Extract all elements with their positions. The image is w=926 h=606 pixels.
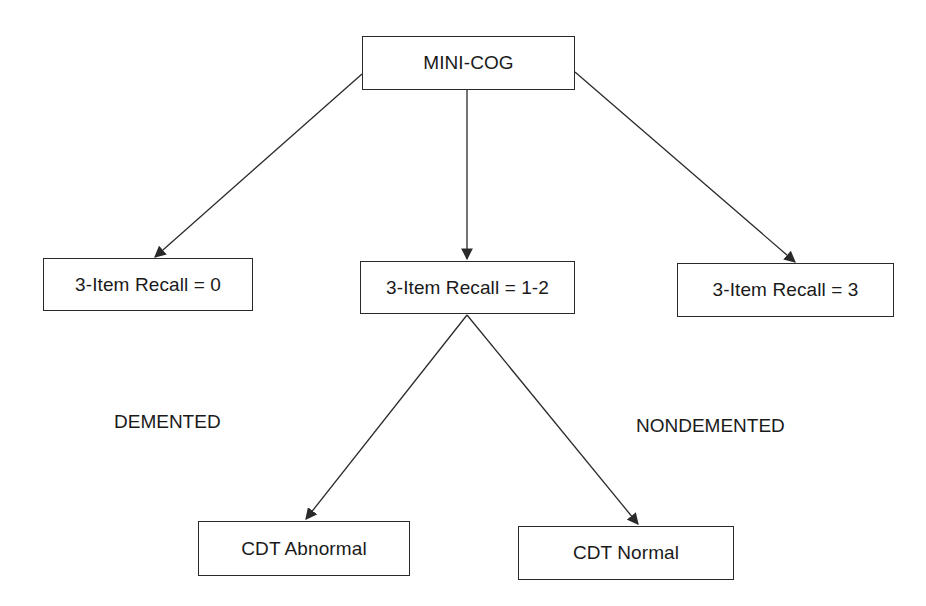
node-mini-cog-label: MINI-COG (423, 52, 514, 74)
edge-root-to-recall-0 (155, 74, 362, 257)
node-cdt-abnormal: CDT Abnormal (198, 521, 410, 576)
outcome-demented-label: DEMENTED (114, 411, 221, 433)
node-mini-cog: MINI-COG (362, 36, 575, 90)
node-recall-3-label: 3-Item Recall = 3 (713, 279, 859, 301)
node-recall-3: 3-Item Recall = 3 (677, 263, 894, 317)
node-cdt-normal-label: CDT Normal (573, 542, 679, 564)
node-cdt-normal: CDT Normal (518, 526, 734, 580)
outcome-nondemented-label: NONDEMENTED (636, 415, 785, 437)
node-cdt-abnormal-label: CDT Abnormal (241, 538, 366, 560)
edge-recall-1-2-to-cdt-abnormal (306, 315, 467, 519)
node-recall-0: 3-Item Recall = 0 (43, 258, 253, 311)
edge-root-to-recall-3 (575, 72, 795, 262)
node-recall-1-2: 3-Item Recall = 1-2 (360, 261, 575, 314)
edge-recall-1-2-to-cdt-normal (467, 315, 638, 524)
node-recall-0-label: 3-Item Recall = 0 (75, 274, 221, 296)
node-recall-1-2-label: 3-Item Recall = 1-2 (386, 277, 549, 299)
